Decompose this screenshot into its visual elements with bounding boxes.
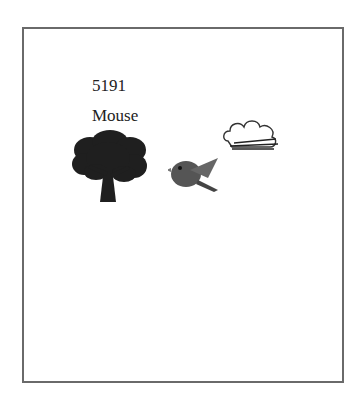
bird-icon — [168, 150, 224, 194]
card-number: 5191 — [92, 76, 126, 96]
cloud-icon — [220, 115, 282, 155]
card-frame — [22, 27, 344, 383]
tree-icon — [70, 128, 148, 204]
card-word: Mouse — [92, 106, 138, 126]
